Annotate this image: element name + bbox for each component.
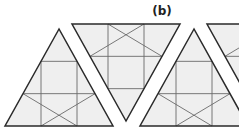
triangles-group — [5, 24, 239, 126]
figure-label: (b) — [152, 4, 172, 18]
triangle-tiling-diagram: (b) — [0, 0, 239, 134]
